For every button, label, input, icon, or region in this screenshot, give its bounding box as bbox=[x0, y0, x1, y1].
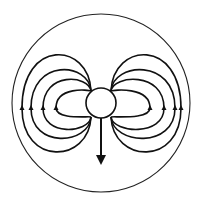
arrow-up-icon bbox=[173, 105, 178, 110]
arrow-up-icon bbox=[162, 105, 167, 110]
arrow-up-icon bbox=[179, 105, 184, 110]
arrow-up-icon bbox=[29, 105, 34, 110]
field-line-loop bbox=[111, 90, 150, 117]
dipole-field-diagram bbox=[0, 0, 202, 206]
field-line-loop bbox=[111, 79, 164, 129]
arrow-up-icon bbox=[54, 105, 59, 110]
central-sphere bbox=[86, 88, 116, 118]
field-line-loop bbox=[111, 55, 181, 152]
arrow-up-icon bbox=[20, 105, 25, 110]
arrow-up-icon bbox=[148, 105, 153, 110]
field-line-loop bbox=[43, 79, 91, 129]
arrow-up-icon bbox=[41, 105, 46, 110]
